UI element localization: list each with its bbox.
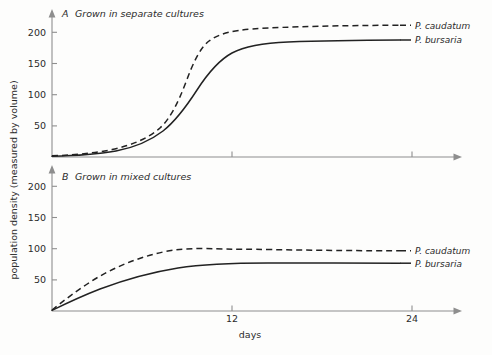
- panel-b-label-caudatum: P. caudatum: [415, 246, 471, 256]
- panel-b-yticklabel-100: 100: [28, 243, 46, 254]
- panel-a-series-caudatum: [52, 25, 400, 156]
- panel-b-xticklabel-12: 12: [226, 313, 238, 324]
- panel-a-yticklabel-200: 200: [28, 27, 46, 38]
- panel-a-series-bursaria: [52, 40, 400, 156]
- x-axis-title: days: [239, 329, 261, 340]
- panel-b-x-axis-arrowhead: [454, 308, 463, 315]
- panel-b-yticklabel-50: 50: [34, 274, 46, 285]
- panel-b-label-bursaria: P. bursaria: [415, 259, 462, 269]
- panel-b-xticklabel-24: 24: [406, 313, 418, 324]
- panel-a-label-bursaria: P. bursaria: [415, 35, 462, 45]
- panel-b-yticklabel-150: 150: [28, 212, 46, 223]
- panel-a-label-caudatum: P. caudatum: [415, 21, 471, 31]
- panel-a-yticklabel-150: 150: [28, 58, 46, 69]
- panel-a-title: Grown in separate cultures: [75, 8, 204, 19]
- panel-b-letter: B: [62, 171, 69, 182]
- figure-container: 200 150 100 50 A Grown in separate cultu…: [0, 0, 492, 355]
- y-axis-title: population density (measured by volume): [8, 80, 19, 279]
- panel-b-title: Grown in mixed cultures: [75, 171, 191, 182]
- chart-svg: 200 150 100 50 A Grown in separate cultu…: [0, 0, 492, 355]
- panel-a-yticklabel-100: 100: [28, 89, 46, 100]
- panel-b-y-axis-arrowhead: [49, 165, 56, 174]
- panel-a-x-axis-arrowhead: [454, 154, 463, 161]
- panel-b-series-bursaria: [52, 263, 400, 310]
- panel-a-letter: A: [61, 8, 69, 19]
- panel-a-y-axis-arrowhead: [49, 9, 56, 18]
- panel-b-series-caudatum: [52, 249, 400, 310]
- panel-a: 200 150 100 50 A Grown in separate cultu…: [28, 8, 471, 160]
- panel-a-yticklabel-50: 50: [34, 120, 46, 131]
- panel-b-yticklabel-200: 200: [28, 181, 46, 192]
- panel-b: 200 150 100 50 12 24 B Grown in mixed cu…: [28, 165, 471, 324]
